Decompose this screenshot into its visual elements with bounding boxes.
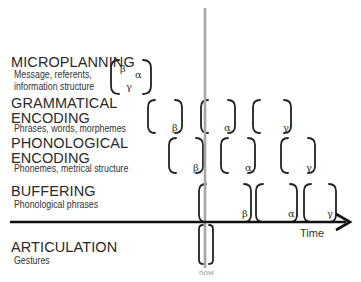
time-axis-label: Time (300, 227, 324, 239)
grammatical-gamma: γ (283, 122, 289, 133)
grammatical-beta: β (172, 122, 178, 133)
phonological-gamma: γ (306, 162, 312, 173)
buffering-alpha: α (288, 208, 295, 219)
bracket-open (111, 60, 119, 94)
phonological-alpha: α (245, 162, 252, 173)
buffering-beta: β (242, 208, 248, 219)
now-label: now (199, 268, 214, 277)
buffering-gamma: γ (327, 208, 333, 219)
phonological-beta: β (193, 162, 199, 173)
microplanning-beta: β (120, 63, 126, 74)
grammatical-alpha: α (224, 122, 231, 133)
timing-diagram: β α γ β α γ β α γ β α γ Time now (0, 0, 361, 282)
bracket-close (143, 60, 151, 94)
microplanning-alpha: α (135, 69, 142, 80)
microplanning-gamma: γ (126, 81, 132, 92)
